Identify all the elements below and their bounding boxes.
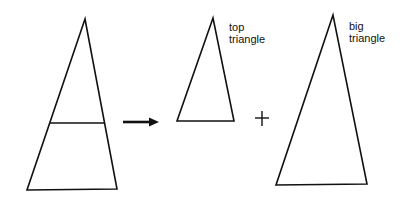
top-triangle-label-line1: top bbox=[229, 21, 265, 33]
big-triangle-label: big triangle bbox=[349, 20, 385, 44]
arrow-icon bbox=[123, 118, 159, 127]
original-triangle bbox=[27, 19, 117, 190]
original-triangle-outline bbox=[27, 19, 117, 190]
big-triangle-label-line1: big bbox=[349, 20, 385, 32]
top-triangle-label: top triangle bbox=[229, 21, 265, 45]
top-triangle-label-line2: triangle bbox=[229, 33, 265, 45]
plus-icon bbox=[255, 111, 269, 126]
top-triangle bbox=[177, 18, 234, 121]
big-triangle-label-line2: triangle bbox=[349, 32, 385, 44]
